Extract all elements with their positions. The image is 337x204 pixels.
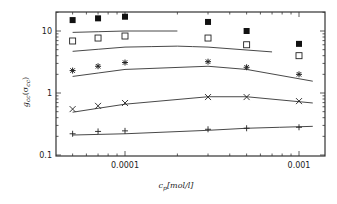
filled-square-icon xyxy=(70,17,76,23)
plus-marker xyxy=(70,131,76,137)
plus-marker xyxy=(244,125,250,131)
curve-3 xyxy=(73,66,313,81)
open-square-marker xyxy=(95,35,101,41)
filled-square-marker xyxy=(95,15,101,21)
open-square-icon xyxy=(205,35,211,41)
fit-curves xyxy=(73,31,313,135)
cross-marker xyxy=(122,100,128,106)
asterisk-marker xyxy=(296,71,302,77)
plus-marker xyxy=(95,128,101,134)
plus-marker xyxy=(205,126,211,132)
asterisk-marker xyxy=(244,64,250,70)
plus-marker xyxy=(296,124,302,130)
filled-square-marker xyxy=(70,17,76,23)
x-tick-label: 0.0001 xyxy=(111,161,139,170)
curve-5 xyxy=(73,126,313,135)
curve-2 xyxy=(73,46,272,52)
y-axis-label: gcc(σcc) xyxy=(21,77,31,107)
open-square-icon xyxy=(296,53,302,59)
y-tick-label: 1 xyxy=(47,89,52,98)
filled-square-icon xyxy=(205,19,211,25)
open-square-icon xyxy=(244,42,250,48)
filled-square-marker xyxy=(296,41,302,47)
plus-marker xyxy=(122,128,128,134)
filled-square-marker xyxy=(244,28,250,34)
asterisk-marker xyxy=(205,59,211,65)
filled-square-icon xyxy=(122,14,128,20)
open-square-icon xyxy=(122,33,128,39)
open-square-icon xyxy=(70,38,76,44)
asterisk-marker xyxy=(122,60,128,66)
curve-1 xyxy=(73,31,178,32)
y-tick-label: 10 xyxy=(42,27,52,36)
curve-4 xyxy=(73,97,313,112)
filled-square-icon xyxy=(244,28,250,34)
filled-square-marker xyxy=(205,19,211,25)
y-tick-label: 0.1 xyxy=(39,151,52,160)
open-square-marker xyxy=(296,53,302,59)
open-square-marker xyxy=(70,38,76,44)
x-tick-label: 0.001 xyxy=(288,161,311,170)
chart: 0.00010.0010.1110 gcc(σcc) cp[mol/l] xyxy=(0,0,337,204)
open-square-icon xyxy=(95,35,101,41)
data-points xyxy=(70,14,302,137)
open-square-marker xyxy=(244,42,250,48)
open-square-marker xyxy=(205,35,211,41)
asterisk-marker xyxy=(95,63,101,69)
asterisk-marker xyxy=(70,68,76,74)
cross-marker xyxy=(70,106,76,112)
open-square-marker xyxy=(122,33,128,39)
x-axis-label: cp[mol/l] xyxy=(159,181,195,192)
filled-square-icon xyxy=(95,15,101,21)
filled-square-icon xyxy=(296,41,302,47)
filled-square-marker xyxy=(122,14,128,20)
